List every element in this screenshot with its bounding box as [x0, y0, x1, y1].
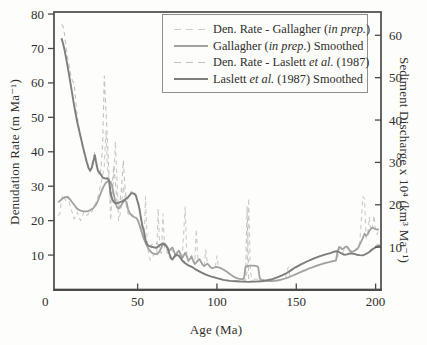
y-left-tick-label-50: 50 [31, 110, 44, 125]
legend-swatch-den-rate-laslett [174, 62, 208, 64]
legend-swatch-laslett-smoothed [174, 78, 208, 80]
y-left-tick-label-30: 30 [31, 179, 44, 194]
legend-swatch-gallagher-smoothed [174, 45, 208, 47]
y-left-tick-label-20: 20 [31, 213, 44, 228]
x-tick-label-150: 150 [287, 294, 307, 309]
x-tick-label-100: 100 [207, 294, 227, 309]
y-axis-left-label: Denudation Rate (m Ma⁻¹) [7, 79, 23, 225]
legend-swatch-wrap [169, 78, 213, 80]
legend: Den. Rate - Gallagher (in prep.)Gallaghe… [162, 14, 368, 93]
series-line-0 [58, 131, 379, 281]
x-axis-label: Age (Ma) [190, 322, 243, 338]
legend-item-gallagher-smoothed: Gallagher (in prep.) Smoothed [169, 38, 361, 55]
legend-item-den-rate-gallagher: Den. Rate - Gallagher (in prep.) [169, 21, 361, 38]
y-left-tick-label-70: 70 [31, 41, 44, 56]
legend-swatch-wrap [169, 29, 213, 31]
y-right-tick-label-60: 60 [389, 28, 402, 43]
legend-swatch-wrap [169, 62, 213, 64]
figure: 1020304050607080102030405060050100150200… [0, 0, 427, 345]
legend-label-gallagher-smoothed: Gallagher (in prep.) Smoothed [213, 38, 364, 55]
y-axis-right-label: Sediment Discharge x 10⁴ (km³ Ma⁻¹) [396, 57, 412, 263]
legend-swatch-den-rate-gallagher [174, 29, 208, 31]
y-left-tick-label-60: 60 [31, 75, 44, 90]
legend-label-den-rate-gallagher: Den. Rate - Gallagher (in prep.) [213, 21, 370, 38]
x-tick-label-0: 0 [42, 294, 49, 309]
legend-item-laslett-smoothed: Laslett et al. (1987) Smoothed [169, 71, 361, 88]
y-left-tick-label-80: 80 [31, 7, 44, 22]
series-line-1 [58, 181, 379, 281]
legend-label-den-rate-laslett: Den. Rate - Laslett et al. (1987) [213, 54, 369, 71]
legend-swatch-wrap [169, 45, 213, 47]
x-tick-label-200: 200 [366, 294, 386, 309]
x-tick-label-50: 50 [131, 294, 144, 309]
legend-label-laslett-smoothed: Laslett et al. (1987) Smoothed [213, 71, 363, 88]
y-left-tick-label-40: 40 [31, 144, 44, 159]
y-left-tick-label-10: 10 [31, 248, 44, 263]
legend-item-den-rate-laslett: Den. Rate - Laslett et al. (1987) [169, 54, 361, 71]
